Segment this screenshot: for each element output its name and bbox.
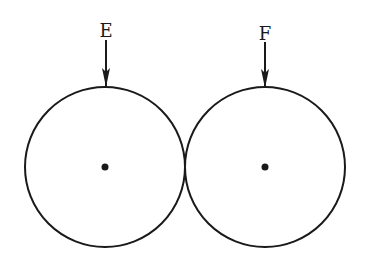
label-f: F [259, 23, 272, 44]
right-center-dot [262, 164, 269, 171]
right-wheel: F [185, 23, 345, 247]
diagram-canvas: E F [0, 0, 365, 265]
left-center-dot [102, 164, 109, 171]
left-wheel: E [25, 20, 185, 247]
label-e: E [99, 20, 112, 41]
